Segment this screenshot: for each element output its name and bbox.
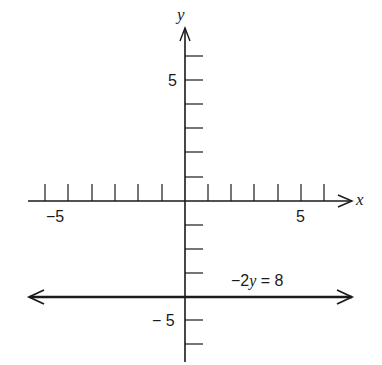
x-tick-label-5: 5 bbox=[296, 209, 305, 225]
equation-label: −2y = 8 bbox=[231, 273, 284, 289]
x-tick-label-neg5: −5 bbox=[46, 209, 64, 225]
equation-prefix: −2 bbox=[231, 272, 249, 289]
x-axis-label: x bbox=[356, 191, 364, 208]
y-axis-label: y bbox=[177, 6, 185, 23]
y-ticks bbox=[185, 56, 203, 344]
y-tick-label-neg5: − 5 bbox=[152, 313, 175, 329]
y-tick-label-5: 5 bbox=[168, 73, 177, 89]
coordinate-plane bbox=[0, 0, 382, 365]
equation-suffix: = 8 bbox=[256, 272, 283, 289]
